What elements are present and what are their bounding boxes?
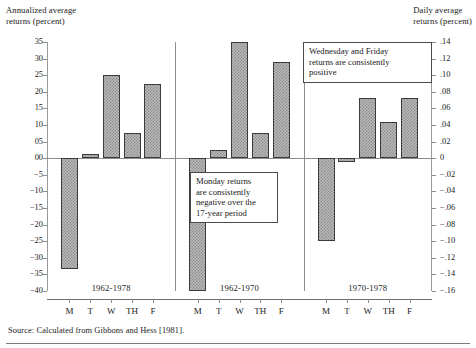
x-axis-label: F bbox=[397, 306, 423, 316]
right-tick-label: −.16 bbox=[440, 287, 476, 295]
right-tick-label: .08 bbox=[440, 88, 476, 96]
right-tick-label: −.10 bbox=[440, 237, 476, 245]
left-tick bbox=[43, 175, 47, 176]
left-tick bbox=[43, 191, 47, 192]
x-tick bbox=[281, 299, 282, 303]
x-tick bbox=[69, 299, 70, 303]
bar bbox=[124, 133, 141, 158]
x-tick bbox=[260, 299, 261, 303]
left-tick bbox=[43, 142, 47, 143]
bar bbox=[231, 42, 248, 158]
bar bbox=[318, 158, 335, 241]
left-tick bbox=[43, 108, 47, 109]
left-tick bbox=[43, 42, 47, 43]
panel-separator bbox=[175, 42, 176, 291]
left-tick-label: −35 bbox=[3, 270, 43, 278]
right-tick-label: .02 bbox=[440, 138, 476, 146]
x-tick bbox=[219, 299, 220, 303]
right-tick-label: .10 bbox=[440, 71, 476, 79]
x-tick bbox=[326, 299, 327, 303]
right-tick-label: .04 bbox=[440, 121, 476, 129]
right-tick bbox=[432, 59, 436, 60]
left-tick-label: −25 bbox=[3, 237, 43, 245]
right-tick-label: .06 bbox=[440, 104, 476, 112]
x-tick bbox=[240, 299, 241, 303]
source-note: Source: Calculated from Gibbons and Hess… bbox=[8, 326, 184, 336]
right-tick bbox=[432, 191, 436, 192]
left-tick bbox=[43, 274, 47, 275]
right-tick bbox=[432, 241, 436, 242]
bar bbox=[380, 122, 397, 159]
right-tick-label: 0 bbox=[440, 154, 476, 162]
x-tick bbox=[389, 299, 390, 303]
x-tick bbox=[347, 299, 348, 303]
bar bbox=[210, 150, 227, 158]
right-tick bbox=[432, 108, 436, 109]
left-tick bbox=[43, 158, 47, 159]
left-tick-label: −5 bbox=[3, 171, 43, 179]
right-tick bbox=[432, 208, 436, 209]
x-tick bbox=[153, 299, 154, 303]
bar bbox=[144, 84, 161, 158]
left-tick-label: 20 bbox=[3, 88, 43, 96]
left-axis-title: Annualized average returns (percent) bbox=[6, 5, 76, 26]
left-tick-label: 00 bbox=[3, 154, 43, 162]
x-tick bbox=[410, 299, 411, 303]
left-tick bbox=[43, 59, 47, 60]
x-axis-label: F bbox=[268, 306, 294, 316]
period-label: 1962-1978 bbox=[56, 283, 166, 293]
right-tick-label: −.06 bbox=[440, 204, 476, 212]
left-tick-label: 25 bbox=[3, 71, 43, 79]
right-tick-label: −.12 bbox=[440, 254, 476, 262]
left-tick-label: 10 bbox=[3, 121, 43, 129]
left-tick-label: 30 bbox=[3, 55, 43, 63]
bar bbox=[252, 133, 269, 158]
left-tick-label: 35 bbox=[3, 38, 43, 46]
x-tick bbox=[198, 299, 199, 303]
left-tick-label: −40 bbox=[3, 287, 43, 295]
left-y-axis bbox=[47, 42, 48, 291]
left-tick bbox=[43, 208, 47, 209]
right-tick bbox=[432, 92, 436, 93]
left-tick bbox=[43, 125, 47, 126]
bar bbox=[359, 98, 376, 158]
left-tick-label: −15 bbox=[3, 204, 43, 212]
left-tick bbox=[43, 225, 47, 226]
left-tick bbox=[43, 241, 47, 242]
right-tick bbox=[432, 158, 436, 159]
day-of-week-returns-figure: Annualized average returns (percent) Dai… bbox=[0, 0, 476, 348]
x-tick bbox=[368, 299, 369, 303]
bar bbox=[61, 158, 78, 269]
period-label: 1970-1978 bbox=[313, 283, 423, 293]
left-tick bbox=[43, 92, 47, 93]
bar bbox=[82, 154, 99, 158]
right-tick bbox=[432, 42, 436, 43]
bar bbox=[338, 158, 355, 161]
left-tick bbox=[43, 291, 47, 292]
left-tick-label: −20 bbox=[3, 221, 43, 229]
right-tick bbox=[432, 75, 436, 76]
bar bbox=[103, 75, 120, 158]
bar bbox=[273, 62, 290, 158]
x-tick bbox=[90, 299, 91, 303]
right-tick bbox=[432, 274, 436, 275]
callout-monday: Monday returns are consistently negative… bbox=[190, 172, 278, 223]
right-axis-title: Daily average returns (percent) bbox=[413, 5, 472, 26]
left-tick bbox=[43, 258, 47, 259]
x-tick bbox=[111, 299, 112, 303]
left-tick bbox=[43, 75, 47, 76]
right-tick-label: −.14 bbox=[440, 270, 476, 278]
bottom-rule bbox=[6, 343, 470, 344]
zero-baseline bbox=[47, 158, 432, 159]
right-tick-label: −.02 bbox=[440, 171, 476, 179]
x-axis-label: F bbox=[140, 306, 166, 316]
period-label: 1962-1970 bbox=[185, 283, 295, 293]
right-tick-label: .12 bbox=[440, 55, 476, 63]
left-tick-label: −30 bbox=[3, 254, 43, 262]
left-tick-label: 05 bbox=[3, 138, 43, 146]
x-tick bbox=[132, 299, 133, 303]
right-tick bbox=[432, 125, 436, 126]
right-tick bbox=[432, 258, 436, 259]
callout-wednesday-friday: Wednesday and Friday returns are consist… bbox=[303, 42, 432, 83]
left-tick-label: −10 bbox=[3, 187, 43, 195]
